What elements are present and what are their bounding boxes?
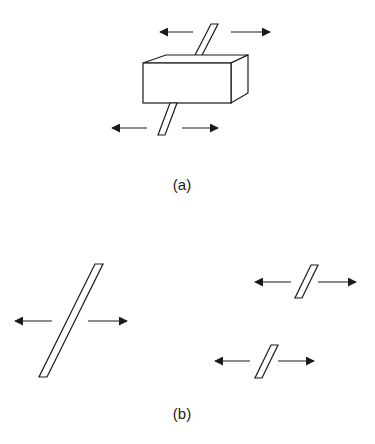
rod-bottom-segment — [158, 103, 177, 135]
panel-b — [15, 264, 356, 378]
diagram-canvas — [0, 0, 375, 444]
panel-a — [112, 24, 270, 135]
short-rod-upper — [295, 265, 318, 298]
panel-a-label: (a) — [173, 176, 191, 193]
short-rod-lower — [255, 345, 278, 378]
box — [143, 55, 248, 103]
panel-b-label: (b) — [173, 405, 191, 422]
